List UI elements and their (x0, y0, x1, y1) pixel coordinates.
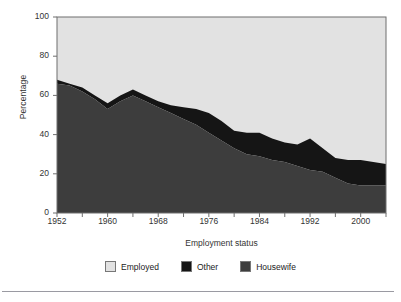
legend-item: Other (181, 261, 218, 272)
x-axis-title: Employment status (57, 238, 386, 248)
bottom-divider (2, 291, 394, 292)
legend-label: Housewife (256, 262, 296, 272)
legend-swatch-icon (105, 261, 116, 272)
x-tick-label: 2000 (344, 216, 378, 226)
x-tick-label: 1984 (242, 216, 276, 226)
x-tick-label: 1952 (40, 216, 74, 226)
legend-item: Housewife (240, 261, 296, 272)
legend-label: Employed (121, 262, 159, 272)
legend-label: Other (197, 262, 218, 272)
legend-swatch-icon (181, 261, 192, 272)
legend-swatch-icon (240, 261, 251, 272)
figure: 020406080100 195219601968197619841992200… (0, 0, 401, 302)
x-tick-label: 1992 (293, 216, 327, 226)
x-tick-label: 1960 (91, 216, 125, 226)
y-tick-label: 20 (23, 168, 49, 178)
legend-item: Employed (105, 261, 159, 272)
chart-legend: EmployedOtherHousewife (0, 261, 401, 272)
chart-area: 020406080100 195219601968197619841992200… (0, 0, 401, 288)
y-tick-label: 100 (23, 11, 49, 21)
x-tick-label: 1968 (141, 216, 175, 226)
y-axis-title: Percentage (18, 52, 28, 142)
x-tick-label: 1976 (192, 216, 226, 226)
